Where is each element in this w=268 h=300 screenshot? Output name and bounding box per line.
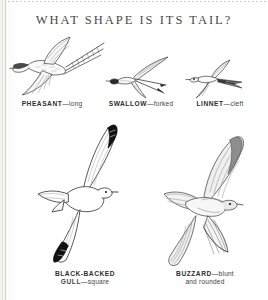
page-edge-line-outer — [2, 0, 3, 300]
caption-gull-line2: GULL—square — [30, 278, 140, 286]
caption-swallow-name: SWALLOW — [109, 100, 147, 107]
swallow-in-flight-icon — [104, 55, 180, 99]
page-edge-line — [5, 0, 6, 300]
caption-gull-name: BLACK-BACKED — [55, 270, 115, 277]
caption-linnet-name: LINNET — [197, 100, 224, 107]
caption-swallow: SWALLOW—forked — [96, 100, 186, 108]
page-background: WHAT SHAPE IS ITS TAIL? — [0, 0, 268, 300]
caption-linnet: LINNET—cleft — [182, 100, 258, 108]
caption-pheasant-name: PHEASANT — [22, 100, 63, 107]
buzzard-in-flight-icon — [142, 134, 262, 268]
page-top-rule — [8, 1, 268, 2]
caption-linnet-shape: cleft — [230, 100, 243, 107]
pheasant-in-flight-icon — [8, 27, 106, 97]
caption-buzzard-line2: and rounded — [150, 278, 260, 286]
caption-pheasant-shape: long — [69, 100, 82, 107]
caption-gull-shape: square — [88, 278, 109, 285]
caption-buzzard: BUZZARD—blunt and rounded — [150, 270, 260, 286]
caption-buzzard-dash: — — [212, 270, 219, 277]
caption-swallow-shape: forked — [154, 100, 174, 107]
caption-gull: BLACK-BACKED GULL—square — [30, 270, 140, 286]
caption-gull-dash: — — [81, 278, 88, 285]
caption-buzzard-name: BUZZARD — [176, 270, 212, 277]
linnet-in-flight-icon — [182, 58, 254, 100]
black-backed-gull-in-flight-icon — [28, 120, 142, 266]
caption-pheasant: PHEASANT—long — [2, 100, 102, 108]
caption-swallow-dash: — — [147, 100, 154, 107]
caption-buzzard-shape: blunt — [219, 270, 234, 277]
caption-gull-name2: GULL — [61, 278, 81, 285]
page-title: WHAT SHAPE IS ITS TAIL? — [0, 13, 268, 28]
